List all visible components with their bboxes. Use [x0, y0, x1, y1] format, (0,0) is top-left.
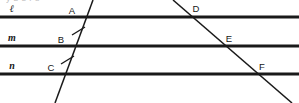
point-label-d: D: [193, 3, 200, 14]
point-label-f: F: [259, 61, 265, 72]
geometry-figure: y b e r s ℓ m n A B C D E F: [0, 0, 299, 103]
figure-canvas: ℓ m n A B C D E F: [0, 0, 299, 103]
line-label-n: n: [9, 60, 15, 71]
line-labels-group: ℓ m n: [8, 3, 16, 71]
line-label-m: m: [8, 32, 16, 43]
point-labels-group: A B C D E F: [48, 3, 266, 73]
tick-segment-BC: [61, 56, 74, 64]
point-label-a: A: [69, 5, 76, 16]
parallel-lines-group: [0, 17, 299, 74]
point-label-c: C: [48, 62, 55, 73]
line-label-l: ℓ: [10, 3, 14, 14]
point-label-e: E: [226, 33, 232, 44]
point-label-b: B: [58, 34, 64, 45]
tick-segment-AB: [72, 27, 85, 35]
